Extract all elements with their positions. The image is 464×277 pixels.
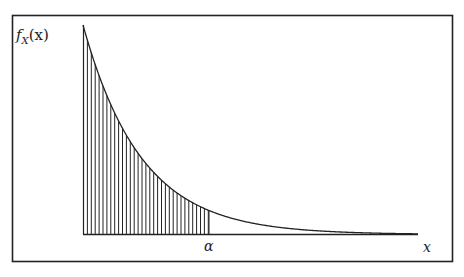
density-figure: fX(x) α x <box>0 0 464 277</box>
figure-frame <box>13 16 453 262</box>
alpha-label: α <box>204 238 214 254</box>
hatched-area <box>84 20 209 235</box>
density-curve <box>83 25 418 234</box>
y-axis-label: fX(x) <box>15 26 49 46</box>
x-axis-label: x <box>423 239 431 255</box>
